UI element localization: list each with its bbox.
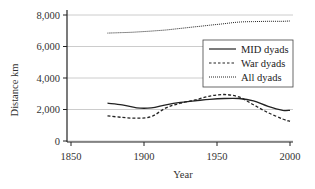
y-axis-title: Distance km	[9, 64, 20, 117]
y-axis-ticks: 02,0004,0006,0008,000	[36, 10, 67, 147]
y-tick-label: 4,000	[36, 73, 60, 84]
series-all-dyads	[108, 21, 291, 33]
legend-label: War dyads	[241, 58, 285, 69]
y-tick-label: 8,000	[36, 10, 60, 21]
x-axis-title: Year	[173, 169, 193, 180]
legend-label: All dyads	[241, 72, 282, 83]
y-tick-label: 2,000	[36, 104, 60, 115]
line-chart: 02,0004,0006,0008,000 1850190019502000 Y…	[0, 0, 315, 189]
x-tick-label: 2000	[280, 151, 301, 162]
y-tick-label: 6,000	[36, 41, 60, 52]
legend: MID dyads War dyads All dyads	[203, 40, 293, 87]
x-tick-label: 1950	[207, 151, 228, 162]
y-tick-label: 0	[55, 136, 60, 147]
legend-label: MID dyads	[241, 44, 289, 55]
x-axis-ticks: 1850190019502000	[61, 142, 301, 162]
series-mid-dyads	[108, 98, 291, 110]
x-tick-label: 1900	[134, 151, 155, 162]
x-tick-label: 1850	[61, 151, 82, 162]
